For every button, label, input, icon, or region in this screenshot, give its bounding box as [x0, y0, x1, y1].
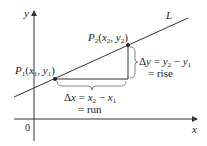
point-p1-label: P1(x1, y1): [14, 64, 55, 78]
line-l-label: L: [165, 9, 172, 21]
point-p2-label: P2(x2, y2): [87, 31, 128, 45]
origin-label: 0: [25, 122, 30, 133]
run-brace: [57, 81, 126, 90]
point-p1: [53, 77, 57, 81]
rise-brace: [130, 47, 138, 78]
x-axis-label: x: [191, 123, 197, 135]
slope-diagram: y x 0 L P1(x1, y1) P2(x2, y2) Δy = y2 − …: [0, 0, 207, 146]
y-axis-label: y: [23, 7, 29, 19]
point-p2: [126, 43, 130, 47]
run-label: = run: [78, 103, 102, 115]
rise-label: = rise: [148, 67, 173, 79]
diagram-canvas: y x 0 L P1(x1, y1) P2(x2, y2) Δy = y2 − …: [0, 0, 207, 146]
